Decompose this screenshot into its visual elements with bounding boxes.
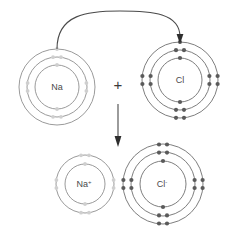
sodium-ion: Na+ — [55, 153, 116, 214]
reaction-arrow-head — [115, 136, 122, 147]
diagram-canvas: Na + — [0, 0, 235, 240]
chloride-ion-label: Cl- — [157, 179, 168, 190]
reaction-arrow — [115, 104, 122, 147]
ionic-bonding-diagram: Na + — [0, 0, 235, 240]
chloride-ion: Cl- — [121, 142, 204, 225]
electron-transfer-arrow-path — [57, 11, 180, 49]
electron-transfer-arrow — [57, 11, 183, 49]
sodium-atom: Na — [19, 47, 95, 125]
chlorine-atom: Cl — [140, 40, 219, 120]
chlorine-label: Cl — [176, 75, 185, 85]
plus-operator: + — [114, 76, 123, 93]
sodium-label: Na — [51, 82, 63, 92]
sodium-ion-label: Na+ — [76, 179, 92, 190]
